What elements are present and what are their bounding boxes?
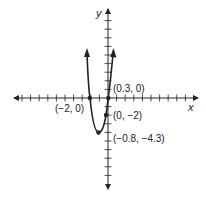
curve-arrow-right-icon	[110, 48, 116, 57]
x-axis	[14, 95, 198, 102]
label-vertex: (−0.8, −4.3)	[113, 133, 165, 144]
parabola-graph: y x (−2, 0) (0.3, 0) (0, −2) (−0.8, −4.3…	[0, 0, 207, 197]
x-axis-label: x	[187, 101, 194, 113]
point-x-intercept-neg2	[88, 96, 92, 100]
point-y-intercept	[104, 113, 108, 117]
label-point-neg2-0: (−2, 0)	[55, 103, 84, 114]
y-axis-label: y	[95, 7, 103, 19]
label-point-0-neg2: (0, −2)	[113, 110, 142, 121]
curve-arrow-left-icon	[84, 48, 90, 57]
point-vertex	[96, 130, 100, 134]
point-x-intercept-0-3	[106, 96, 110, 100]
parabola-curve	[87, 54, 113, 133]
label-point-0-3-0: (0.3, 0)	[113, 83, 145, 94]
